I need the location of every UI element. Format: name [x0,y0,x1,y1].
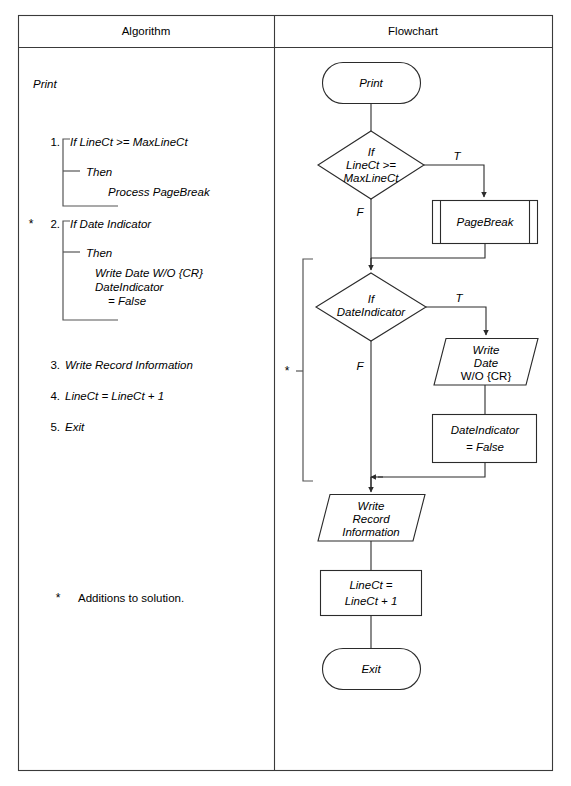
footnote-marker: * [56,591,61,605]
flow-node-writedate: Write Date W/O {CR} [434,339,538,386]
flow-node-dec1-line-3: MaxLineCt [344,172,400,184]
flow-node-pagebreak: PageBreak [433,201,538,244]
algorithm-column: Print 1. If LineCt >= MaxLineCt Then Pro… [29,78,211,605]
algorithm-title: Print [33,78,57,90]
connector-dec2-true [426,307,486,335]
flow-node-start-label: Print [359,77,383,89]
flow-node-writedate-line-2: Date [474,357,498,369]
flow-node-writedate-line-1: Write [473,344,500,356]
process-shape-inc [321,571,422,616]
connector-dec1-true [424,165,484,197]
step-number-4: 4. [50,390,60,402]
flow-node-writerecord-line-1: Write [358,500,385,512]
algorithm-step-5: 5. Exit [50,421,85,433]
step-number-1: 1. [50,136,60,148]
step-condition-3: Write Record Information [65,359,193,371]
step-body-2-line-3: = False [108,295,146,307]
step-condition-2: If Date Indicator [70,218,152,230]
connector-pagebreak-merge [371,244,485,259]
flow-node-inc-line-2: LineCt + 1 [345,595,398,607]
flow-node-writerecord-line-2: Record [352,513,390,525]
flow-node-dec2-line-2: DateIndicator [337,306,407,318]
flow-node-inc: LineCt = LineCt + 1 [321,571,422,616]
algorithm-step-4: 4. LineCt = LineCt + 1 [50,390,164,402]
footnote-text: Additions to solution. [78,592,184,604]
step-then-label-2: Then [86,247,112,259]
branch-label-dec2-false: F [356,360,364,372]
step-number-2: 2. [50,218,60,230]
flow-node-pagebreak-label: PageBreak [457,216,515,228]
algorithm-flowchart-figure: Algorithm Flowchart Print 1. If LineCt >… [0,0,571,786]
flow-node-dec2: If DateIndicator [316,273,426,341]
step-condition-1: If LineCt >= MaxLineCt [70,136,188,148]
algorithm-step-1: 1. If LineCt >= MaxLineCt Then Process P… [50,136,210,206]
flow-node-writedate-line-3: W/O {CR} [461,370,512,382]
column-header-algorithm: Algorithm [122,25,171,37]
figure-page: Algorithm Flowchart Print 1. If LineCt >… [0,0,571,786]
flow-node-inc-line-1: LineCt = [349,579,392,591]
step-body-2-line-1: Write Date W/O {CR} [95,267,203,279]
algorithm-step-3: 3. Write Record Information [50,359,192,371]
flowchart-addition-bracket: * [285,259,313,481]
step-number-5: 5. [50,421,60,433]
connector-setfalse-merge [378,463,485,478]
flow-node-end: Exit [323,649,421,690]
branch-label-dec1-true: T [453,150,461,162]
addition-bracket-marker: * [285,364,290,378]
flow-node-writerecord: Write Record Information [318,495,425,542]
process-shape-setfalse [433,415,537,463]
algorithm-footnote: * Additions to solution. [56,591,184,605]
flow-node-setfalse-line-1: DateIndicator [451,424,521,436]
step-condition-4: LineCt = LineCt + 1 [65,390,164,402]
flow-node-writerecord-line-3: Information [342,526,400,538]
step-marker-2: * [29,217,34,231]
column-header-flowchart: Flowchart [388,25,439,37]
flowchart-column: Print If LineCt >= MaxLineCt T F [285,63,538,690]
step-then-label-1: Then [86,166,112,178]
flow-node-dec1-line-2: LineCt >= [346,159,396,171]
branch-label-dec1-false: F [356,206,364,218]
step-number-3: 3. [50,359,60,371]
flow-node-dec1: If LineCt >= MaxLineCt [318,131,424,199]
step-body-2-line-2: DateIndicator [95,281,165,293]
flow-node-end-label: Exit [361,663,381,675]
branch-label-dec2-true: T [455,292,463,304]
step-condition-5: Exit [65,421,85,433]
step-body-1-line-1: Process PageBreak [108,186,211,198]
algorithm-step-2: * 2. If Date Indicator Then Write Date W… [29,217,203,320]
flow-node-start: Print [323,63,421,104]
flow-node-setfalse-line-2: = False [466,441,504,453]
flow-node-setfalse: DateIndicator = False [433,415,537,463]
addition-bracket-shape [303,259,313,481]
